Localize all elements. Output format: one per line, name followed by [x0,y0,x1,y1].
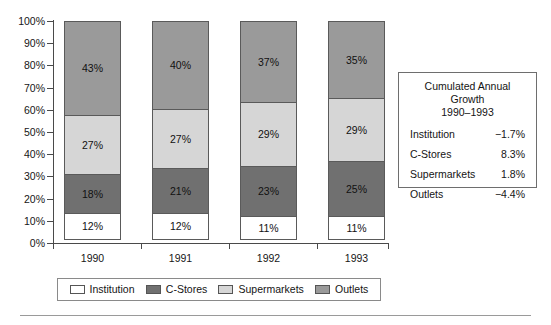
bar-segment-label: 25% [346,184,367,195]
growth-box-title-line1: Cumulated Annual Growth [410,80,525,106]
bar-segment: 23% [240,166,297,217]
x-axis-line [53,243,389,244]
y-axis-tick-label-text: 70% [3,83,45,94]
bar-segment: 43% [64,21,121,116]
bar-segment: 11% [240,216,297,240]
x-axis-tick [388,243,389,249]
y-axis-tick-label: 50% [0,127,45,138]
growth-row-value: 8.3% [501,148,525,160]
y-axis-tick-label-text: 10% [3,216,45,227]
x-axis-category-label: 1990 [53,252,133,264]
legend-item[interactable]: C-Stores [146,284,207,295]
x-axis-tick [317,243,318,249]
growth-row: Supermarkets1.8% [410,168,525,180]
bar-segment-label: 12% [170,221,191,232]
y-axis-tick-label: 0% [0,238,45,249]
bar-segment: 40% [152,21,209,110]
y-axis-tick-label: 10% [0,216,45,227]
legend-label: Supermarkets [238,284,303,295]
bar-segment: 11% [328,216,385,240]
growth-row: C-Stores8.3% [410,148,525,160]
y-axis-tick-label: 40% [0,149,45,160]
bar-segment-label: 18% [82,189,103,200]
bar-segment: 21% [152,168,209,215]
bar-segment: 18% [64,174,121,214]
bar-segment-label: 29% [258,129,279,140]
y-axis-tick-label: 70% [0,83,45,94]
bar-segment-label: 27% [82,140,103,151]
legend-swatch [146,285,161,294]
plot-area: 43%27%18%12%40%27%21%12%37%29%23%11%35%2… [53,21,388,243]
bar-segment-label: 27% [170,134,191,145]
bar-segment-label: 43% [82,63,103,74]
y-axis-tick-label-text: 90% [3,38,45,49]
bar-segment: 12% [64,213,121,240]
chart-legend: InstitutionC-StoresSupermarketsOutlets [57,278,381,301]
bar-segment-label: 21% [170,186,191,197]
bar-column: 40%27%21%12% [152,21,209,243]
legend-label: C-Stores [166,284,207,295]
growth-rows: Institution−1.7%C-Stores8.3%Supermarkets… [410,128,525,200]
y-axis-tick-label-text: 0% [3,238,45,249]
growth-row-value: 1.8% [501,168,525,180]
footer-divider [20,315,531,316]
bar-segment: 27% [152,109,209,169]
growth-row-label: Institution [410,128,455,140]
growth-box-title-line2: 1990–1993 [410,106,525,119]
y-axis-tick-label: 30% [0,171,45,182]
bar-segment-label: 35% [346,55,367,66]
y-axis-tick-label-text: 50% [3,127,45,138]
y-axis-tick-label-text: 80% [3,60,45,71]
bar-segment: 12% [152,213,209,240]
bar-segment-label: 40% [170,60,191,71]
bar-segment-label: 23% [258,186,279,197]
growth-row-label: C-Stores [410,148,451,160]
legend-label: Institution [90,284,135,295]
y-axis-tick-label: 60% [0,105,45,116]
x-axis-category-label: 1993 [317,252,397,264]
x-axis-tick [229,243,230,249]
y-axis-tick-label: 80% [0,60,45,71]
legend-item[interactable]: Institution [70,284,135,295]
y-axis-tick-label-text: 60% [3,105,45,116]
y-axis-tick-label: 90% [0,38,45,49]
growth-row-value: −1.7% [495,128,525,140]
bar-segment-label: 29% [346,125,367,136]
growth-row-label: Supermarkets [410,168,475,180]
bar-column: 37%29%23%11% [240,21,297,243]
chart-figure: 0%10%20%30%40%50%60%70%80%90%100% 199019… [0,0,551,325]
legend-swatch [218,285,233,294]
bar-column: 35%29%25%11% [328,21,385,243]
growth-row-label: Outlets [410,188,443,200]
x-axis-category-label: 1992 [229,252,309,264]
y-axis-tick-label: 20% [0,194,45,205]
x-axis-category-label: 1991 [141,252,221,264]
x-axis-tick [141,243,142,249]
bar-segment: 29% [328,98,385,162]
y-axis-tick-label-text: 20% [3,194,45,205]
growth-box-title: Cumulated Annual Growth 1990–1993 [410,80,525,119]
legend-swatch [70,285,85,294]
legend-item[interactable]: Supermarkets [218,284,303,295]
legend-item[interactable]: Outlets [315,284,368,295]
bar-segment: 27% [64,115,121,175]
legend-swatch [315,285,330,294]
legend-label: Outlets [335,284,368,295]
y-axis-tick-label-text: 100% [3,16,45,27]
bar-segment-label: 12% [82,221,103,232]
growth-row: Outlets−4.4% [410,188,525,200]
bar-segment-label: 11% [258,223,278,234]
bar-segment-label: 11% [346,223,366,234]
y-axis-tick-label-text: 40% [3,149,45,160]
growth-row-value: −4.4% [495,188,525,200]
bar-column: 43%27%18%12% [64,21,121,243]
bar-segment: 25% [328,161,385,217]
bar-segment: 35% [328,21,385,99]
bar-segment: 37% [240,21,297,103]
y-axis-tick-label-text: 30% [3,171,45,182]
x-axis-tick [53,243,54,249]
growth-row: Institution−1.7% [410,128,525,140]
bar-segment-label: 37% [258,57,279,68]
bar-segment: 29% [240,102,297,166]
growth-summary-box: Cumulated Annual Growth 1990–1993 Instit… [398,72,537,188]
